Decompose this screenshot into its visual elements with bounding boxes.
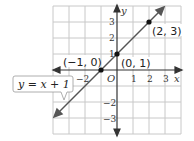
- tick-x-2: 2: [147, 74, 153, 84]
- tick-y-1: 1: [109, 49, 115, 59]
- point-label-neg1-0: (−1, 0): [63, 56, 102, 69]
- y-axis-label: y: [120, 5, 127, 16]
- tick-y-3: 3: [109, 17, 115, 27]
- point-2-3: [146, 19, 151, 24]
- point-label-2-3: (2, 3): [152, 25, 182, 38]
- origin-label: O: [107, 73, 115, 84]
- tick-x-3: 3: [163, 74, 169, 84]
- x-axis-label: x: [174, 73, 180, 84]
- tick-x-neg2: −2: [76, 74, 89, 84]
- coordinate-graph: y x O 1 2 3 −2 3 2 1 −2 −3 (−1, 0) (0, 1…: [0, 0, 194, 141]
- tick-y-neg3: −3: [103, 114, 117, 124]
- tick-x-1: 1: [131, 74, 137, 84]
- equation-callout: y = x + 1: [13, 76, 73, 100]
- point-label-0-1: (0, 1): [121, 57, 151, 70]
- equation-label: y = x + 1: [17, 78, 70, 91]
- tick-y-2: 2: [109, 33, 115, 43]
- tick-y-neg2: −2: [103, 98, 116, 108]
- point-0-1: [114, 51, 119, 56]
